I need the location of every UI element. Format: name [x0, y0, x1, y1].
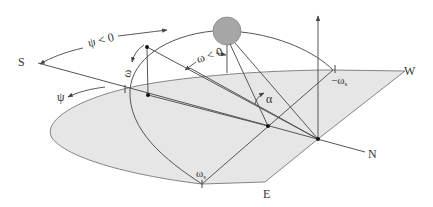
- label-west: W: [404, 64, 416, 78]
- label-east: E: [263, 187, 270, 201]
- solar-geometry-diagram: S N W E ψ < 0 ψ ω ω < 0 α −ωs ωs: [0, 0, 433, 207]
- label-north: N: [368, 147, 377, 161]
- label-azimuth-negative: ψ < 0: [86, 30, 115, 50]
- point-origin: [316, 137, 320, 141]
- label-altitude: α: [266, 92, 273, 106]
- sun-icon: [213, 17, 241, 45]
- label-south: S: [18, 55, 25, 69]
- hour-angle-arrow: [132, 45, 144, 62]
- azimuth-negative-arrow-right: [118, 30, 167, 36]
- label-hour-angle-negative: ω < 0: [195, 44, 225, 66]
- point-c: [266, 124, 270, 128]
- point-b: [146, 93, 150, 97]
- label-azimuth: ψ: [57, 90, 65, 104]
- label-hour-angle: ω: [119, 68, 134, 78]
- point-a: [145, 45, 149, 49]
- azimuth-negative-arrow: [40, 48, 83, 64]
